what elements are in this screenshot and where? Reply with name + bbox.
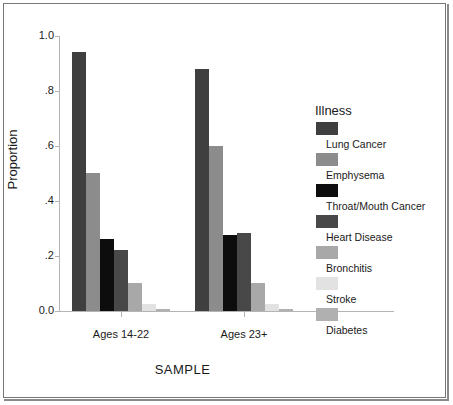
- chart-screenshot: 1.0.8.6.4.20.0 Proportion Ages 14-22Ages…: [0, 0, 453, 405]
- bar: [265, 304, 279, 311]
- bar: [142, 304, 156, 311]
- legend-label: Bronchitis: [326, 262, 372, 274]
- bar: [279, 309, 293, 311]
- legend-entry: Stroke: [313, 277, 448, 308]
- legend-entries: Lung CancerEmphysemaThroat/Mouth CancerH…: [313, 122, 448, 339]
- y-axis-tick-label: .4: [18, 195, 54, 206]
- x-axis-group-label: Ages 14-22: [61, 328, 181, 340]
- legend-entry: Emphysema: [313, 153, 448, 184]
- legend-entry: Bronchitis: [313, 246, 448, 277]
- x-axis-group-label: Ages 23+: [184, 328, 304, 340]
- legend-label: Diabetes: [326, 324, 367, 336]
- bar: [100, 239, 114, 311]
- bar: [86, 173, 100, 311]
- y-axis-tick-label: .2: [18, 250, 54, 261]
- legend-label: Lung Cancer: [326, 138, 386, 150]
- bar: [237, 233, 251, 311]
- x-axis-title: SAMPLE: [60, 362, 305, 377]
- x-axis-tick: [121, 312, 122, 317]
- bar: [209, 146, 223, 311]
- y-axis-tick-label: 1.0: [18, 30, 54, 41]
- bar: [223, 235, 237, 311]
- legend-entry: Lung Cancer: [313, 122, 448, 153]
- chart-legend: Illness Lung CancerEmphysemaThroat/Mouth…: [313, 103, 448, 339]
- plot-area: [60, 36, 305, 311]
- legend-title: Illness: [315, 103, 448, 118]
- legend-swatch: [316, 215, 338, 228]
- bar: [128, 283, 142, 311]
- y-axis-tick-label: 0.0: [18, 305, 54, 316]
- legend-entry: Diabetes: [313, 308, 448, 339]
- legend-swatch: [316, 122, 338, 135]
- legend-swatch: [316, 153, 338, 166]
- legend-label: Emphysema: [326, 169, 384, 181]
- x-axis-tick: [244, 312, 245, 317]
- legend-entry: Throat/Mouth Cancer: [313, 184, 448, 215]
- bar: [156, 309, 170, 311]
- y-axis-title: Proportion: [5, 85, 20, 235]
- legend-swatch: [316, 277, 338, 290]
- bar: [72, 52, 86, 311]
- bar: [195, 69, 209, 311]
- legend-swatch: [316, 184, 338, 197]
- legend-entry: Heart Disease: [313, 215, 448, 246]
- y-axis-tick-label: .6: [18, 140, 54, 151]
- bar: [251, 283, 265, 311]
- legend-label: Throat/Mouth Cancer: [326, 200, 425, 212]
- legend-label: Heart Disease: [326, 231, 393, 243]
- frame-shadow-bottom: [4, 399, 449, 401]
- bar: [114, 250, 128, 311]
- legend-label: Stroke: [326, 293, 356, 305]
- legend-swatch: [316, 246, 338, 259]
- y-axis-tick-label: .8: [18, 85, 54, 96]
- legend-swatch: [316, 308, 338, 321]
